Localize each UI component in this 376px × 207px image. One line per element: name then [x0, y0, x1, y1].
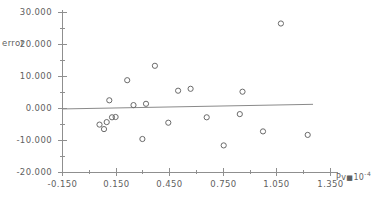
x-tick-label: -0.150: [40, 179, 86, 189]
data-points: [97, 21, 310, 148]
plot-canvas: [0, 0, 376, 207]
data-point: [131, 103, 136, 108]
data-point: [188, 86, 193, 91]
data-point: [166, 120, 171, 125]
y-tick-label: 20.000: [0, 39, 52, 49]
x-tick-label: 0.150: [94, 179, 140, 189]
plot-axes: [58, 10, 338, 176]
data-point: [221, 143, 226, 148]
data-point: [97, 122, 102, 127]
x-tick-label: 0.750: [201, 179, 247, 189]
data-point: [176, 88, 181, 93]
data-point: [104, 120, 109, 125]
data-point: [113, 114, 118, 119]
data-point: [240, 89, 245, 94]
data-point: [143, 101, 148, 106]
y-tick-label: -20.000: [0, 167, 52, 177]
data-point: [305, 132, 310, 137]
trend-line: [62, 104, 313, 109]
data-point: [101, 127, 106, 132]
data-point: [140, 136, 145, 141]
data-point: [237, 112, 242, 117]
data-point: [152, 63, 157, 68]
scatter-plot: error Pv■10-4 30.00020.00010.0000.000-10…: [0, 0, 376, 207]
y-tick-label: 30.000: [0, 7, 52, 17]
x-tick-label: 1.050: [254, 179, 300, 189]
data-point: [107, 98, 112, 103]
regression-line: [62, 104, 313, 109]
x-tick-label: 0.450: [147, 179, 193, 189]
y-tick-label: 10.000: [0, 71, 52, 81]
data-point: [204, 115, 209, 120]
data-point: [278, 21, 283, 26]
y-tick-label: 0.000: [0, 103, 52, 113]
y-tick-label: -10.000: [0, 135, 52, 145]
data-point: [260, 129, 265, 134]
data-point: [125, 78, 130, 83]
x-tick-label: 1.350: [308, 179, 354, 189]
